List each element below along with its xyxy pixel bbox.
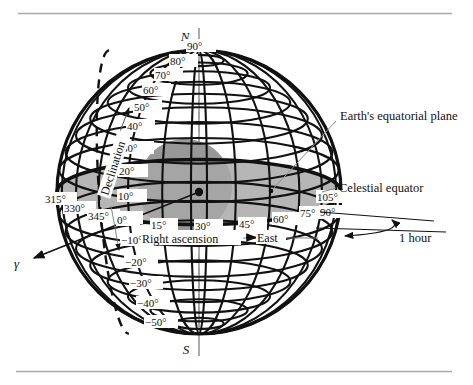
right-ascension-tick-label: 0° bbox=[117, 214, 127, 226]
equatorial-plane-leader-dot bbox=[269, 189, 274, 194]
celestial-sphere-figure: γ N S 90° 80° 70° 60° 50° 40° bbox=[0, 0, 473, 385]
right-ascension-tick: 60° bbox=[272, 212, 301, 225]
declination-tick: 70° bbox=[154, 68, 183, 81]
declination-tick-label: 50° bbox=[134, 101, 149, 113]
right-ascension-tick-label: 105° bbox=[317, 191, 338, 203]
right-ascension-tick: 90° bbox=[319, 205, 348, 218]
declination-tick: 40° bbox=[126, 119, 155, 132]
declination-tick-label: −30° bbox=[130, 277, 152, 289]
declination-tick-label: −40° bbox=[137, 297, 159, 309]
east-label: East bbox=[257, 231, 278, 245]
right-ascension-axis-label: Right ascension bbox=[142, 232, 218, 246]
declination-tick-label: 80° bbox=[170, 55, 185, 67]
right-ascension-tick: 15° bbox=[150, 218, 178, 231]
right-ascension-tick: 0° bbox=[116, 213, 140, 226]
equatorial-plane-callout: Earth's equatorial plane bbox=[340, 109, 458, 123]
declination-tick: −50° bbox=[144, 315, 178, 328]
celestial-equator-callout: Celestial equator bbox=[339, 181, 424, 195]
right-ascension-tick-label: 75° bbox=[300, 207, 315, 219]
right-ascension-tick-label: 330° bbox=[64, 202, 85, 214]
declination-tick: 50° bbox=[133, 100, 162, 113]
declination-tick-label: 70° bbox=[155, 69, 170, 81]
declination-tick: 90° bbox=[186, 39, 216, 52]
east-label-group: East bbox=[256, 230, 286, 245]
right-ascension-axis-label-group: Right ascension bbox=[141, 230, 241, 246]
right-ascension-tick-label: 60° bbox=[273, 213, 288, 225]
declination-tick: −40° bbox=[136, 296, 170, 309]
declination-tick: 80° bbox=[169, 54, 198, 67]
right-ascension-tick-label: 15° bbox=[151, 219, 166, 231]
declination-tick-label: 90° bbox=[187, 40, 202, 52]
right-ascension-tick-label: 315° bbox=[45, 193, 66, 205]
right-ascension-tick: 345° bbox=[87, 209, 120, 222]
one-hour-label: 1 hour bbox=[399, 231, 432, 245]
declination-tick-label: 60° bbox=[143, 84, 158, 96]
right-ascension-tick: 45° bbox=[238, 217, 267, 230]
south-pole-label: S bbox=[183, 342, 190, 357]
declination-tick: 10° bbox=[117, 189, 147, 202]
declination-tick: −20° bbox=[124, 255, 158, 268]
right-ascension-tick-label: 45° bbox=[239, 218, 254, 230]
diagram-canvas: γ N S 90° 80° 70° 60° 50° 40° bbox=[0, 0, 473, 385]
vernal-equinox-label: γ bbox=[14, 256, 20, 271]
declination-tick: 20° bbox=[118, 164, 148, 177]
declination-tick-label: 20° bbox=[119, 165, 134, 177]
declination-tick: 60° bbox=[142, 83, 171, 96]
declination-tick-label: −10° bbox=[121, 234, 143, 246]
declination-tick: −30° bbox=[129, 276, 163, 289]
right-ascension-tick-label: 345° bbox=[88, 210, 109, 222]
declination-tick-label: 10° bbox=[118, 190, 133, 202]
declination-tick-label: 40° bbox=[127, 120, 142, 132]
declination-tick-label: −20° bbox=[125, 256, 147, 268]
declination-tick-label: −50° bbox=[145, 316, 167, 328]
